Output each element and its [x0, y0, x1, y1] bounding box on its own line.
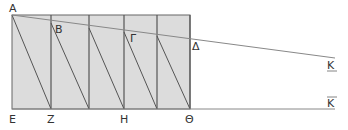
- label-e: Ε: [9, 114, 16, 125]
- label-k-lower: K: [327, 98, 334, 109]
- label-k-upper: K: [327, 60, 334, 71]
- label-d: Δ: [192, 41, 200, 52]
- label-th: Θ: [185, 114, 194, 125]
- label-a: Α: [9, 3, 17, 14]
- label-b: Β: [55, 24, 63, 35]
- label-z: Ζ: [47, 114, 55, 125]
- label-h: Η: [120, 114, 128, 125]
- rectangle-region: [12, 15, 190, 109]
- label-g: Γ: [130, 33, 136, 44]
- diagram-canvas: [0, 0, 348, 130]
